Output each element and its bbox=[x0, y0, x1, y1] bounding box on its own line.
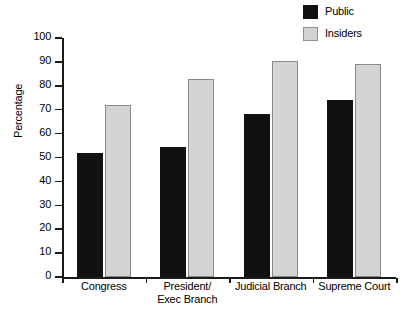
y-tick-label: 50 bbox=[39, 150, 51, 163]
x-axis-label: Judicial Branch bbox=[229, 280, 313, 293]
chart-legend: Public Insiders bbox=[303, 4, 362, 41]
bars-layer bbox=[62, 38, 396, 277]
y-tick: 90 bbox=[55, 61, 62, 63]
y-tick-label: 10 bbox=[39, 245, 51, 258]
legend-label-public: Public bbox=[325, 6, 354, 17]
y-tick-label: 20 bbox=[39, 221, 51, 234]
y-tick: 30 bbox=[55, 205, 62, 207]
x-tick bbox=[396, 278, 398, 283]
y-axis-title: Percentage bbox=[12, 84, 24, 138]
plot-area: 1009080706050403020100 bbox=[62, 38, 396, 277]
x-axis-label: Supreme Court bbox=[313, 280, 397, 293]
y-tick: 70 bbox=[55, 109, 62, 111]
bar-insiders-1 bbox=[188, 79, 214, 277]
bar-public-0 bbox=[77, 153, 103, 277]
y-tick-label: 40 bbox=[39, 174, 51, 187]
scan-artifact bbox=[0, 315, 402, 327]
y-tick-label: 90 bbox=[39, 54, 51, 67]
bar-chart: Public Insiders Percentage 1009080706050… bbox=[0, 0, 402, 327]
y-tick: 50 bbox=[55, 157, 62, 159]
bar-insiders-0 bbox=[105, 105, 131, 277]
bar-insiders-2 bbox=[272, 61, 298, 277]
bar-public-2 bbox=[244, 114, 270, 277]
y-tick-label: 70 bbox=[39, 102, 51, 115]
y-tick: 20 bbox=[55, 228, 62, 230]
x-axis-label: Congress bbox=[62, 280, 146, 293]
y-tick-label: 60 bbox=[39, 126, 51, 139]
y-tick: 10 bbox=[55, 252, 62, 254]
bar-public-3 bbox=[327, 100, 353, 277]
y-tick-label: 80 bbox=[39, 78, 51, 91]
y-tick: 0 bbox=[55, 276, 62, 278]
bar-public-1 bbox=[160, 147, 186, 277]
legend-swatch-public-icon bbox=[303, 5, 318, 19]
x-axis-label: President/ Exec Branch bbox=[146, 280, 230, 306]
y-tick-label: 100 bbox=[34, 30, 51, 43]
y-tick: 100 bbox=[55, 37, 62, 39]
y-tick: 60 bbox=[55, 133, 62, 135]
y-tick: 40 bbox=[55, 181, 62, 183]
y-tick-label: 30 bbox=[39, 198, 51, 211]
y-tick-label: 0 bbox=[45, 269, 51, 282]
legend-item-public: Public bbox=[303, 4, 362, 19]
bar-insiders-3 bbox=[355, 64, 381, 277]
y-tick: 80 bbox=[55, 85, 62, 87]
